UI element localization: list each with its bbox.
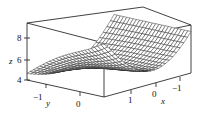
surface-plot: 8 6 4 z −1 0 y 1 0 −1 x	[0, 0, 200, 133]
surface-mesh	[27, 15, 191, 75]
y-tick-minus1: −1	[33, 92, 43, 102]
y-axis	[46, 84, 80, 96]
x-axis-label: x	[160, 96, 165, 106]
z-tick-8: 8	[17, 33, 22, 43]
x-tick-1: 1	[128, 95, 133, 105]
x-tick-0: 0	[152, 89, 157, 99]
x-tick-minus1: −1	[172, 83, 182, 93]
z-tick-4: 4	[17, 75, 22, 85]
z-axis-label: z	[8, 56, 13, 66]
y-axis-label: y	[45, 98, 50, 108]
y-tick-0: 0	[76, 99, 81, 109]
z-tick-6: 6	[17, 55, 22, 65]
